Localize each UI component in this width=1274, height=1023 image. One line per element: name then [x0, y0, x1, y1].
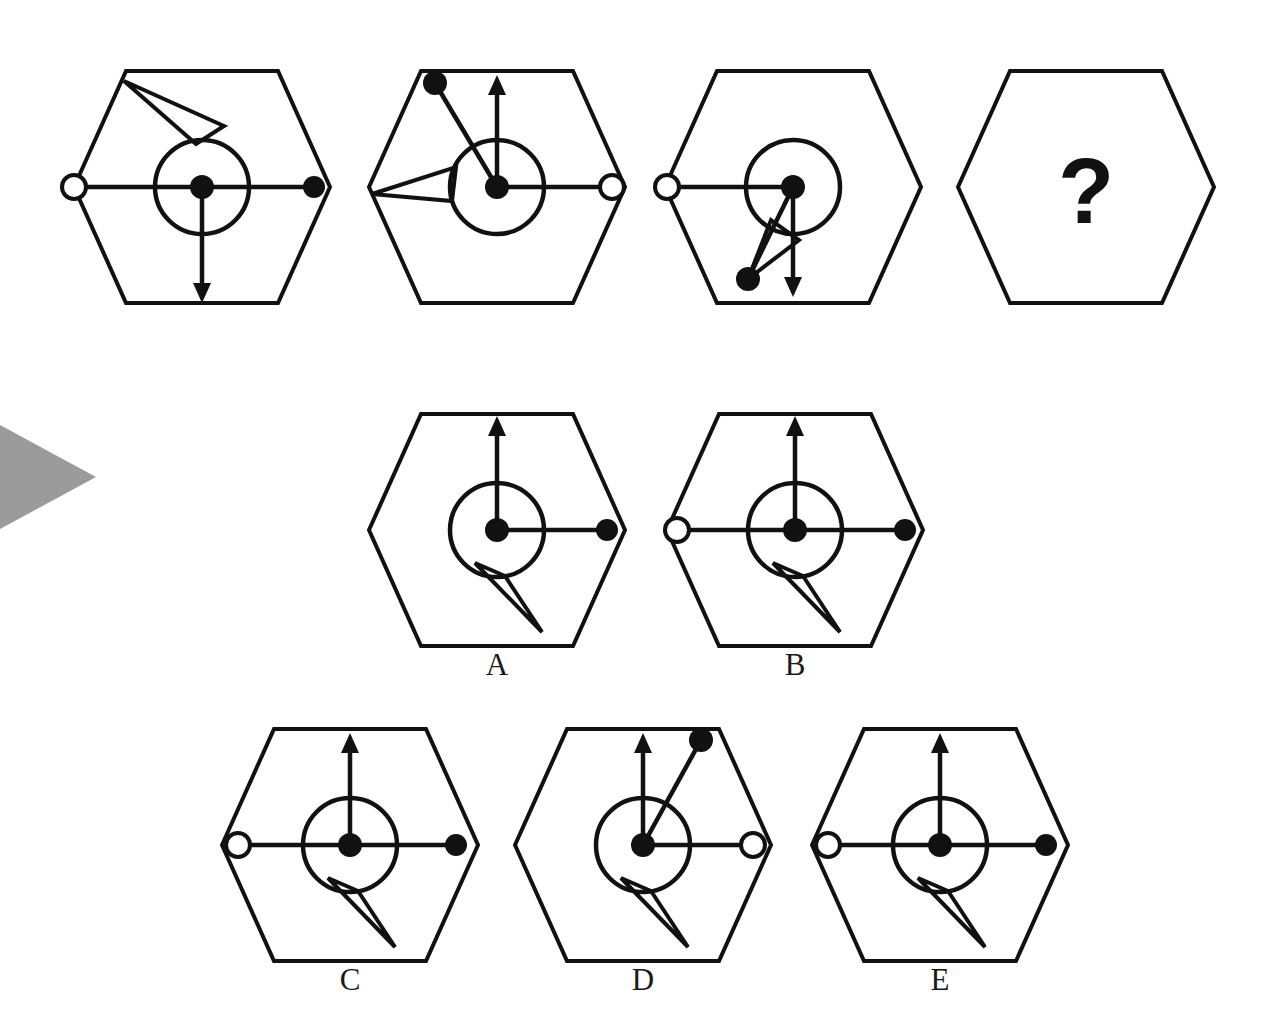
left-spoke-open-dot: [816, 833, 840, 857]
right-spoke-open-dot: [741, 833, 765, 857]
answer-hexagon-D[interactable]: [495, 709, 791, 981]
wedge-pointer: [124, 81, 224, 144]
center-dot: [781, 175, 805, 199]
puzzle-canvas: ? ABCDE: [0, 0, 1274, 1023]
question-mark-glyph: ?: [1058, 140, 1114, 242]
down-arrow-head: [784, 277, 802, 297]
right-spoke-filled-dot: [1035, 834, 1057, 856]
wedge-pointer: [372, 167, 456, 201]
center-dot: [783, 518, 807, 542]
up-arrow-head: [931, 733, 949, 753]
row-pointer-triangle-icon: [0, 425, 96, 529]
center-dot: [485, 175, 509, 199]
answer-hexagon-B[interactable]: [647, 394, 943, 666]
right-spoke-open-dot: [600, 175, 624, 199]
right-spoke-filled-dot: [894, 519, 916, 541]
center-dot: [928, 833, 952, 857]
up-arrow-head: [341, 733, 359, 753]
option-label-E: E: [910, 964, 970, 995]
left-spoke-open-dot: [62, 175, 86, 199]
answer-hexagon-E[interactable]: [792, 709, 1088, 981]
up-arrow-head: [786, 416, 804, 436]
up-arrow-head: [488, 416, 506, 436]
center-dot: [190, 175, 214, 199]
right-spoke-filled-dot: [596, 519, 618, 541]
left-spoke-open-dot: [226, 833, 250, 857]
option-label-B: B: [765, 649, 825, 680]
matrix-hexagon-q4: ?: [938, 51, 1234, 323]
left-spoke-open-dot: [665, 518, 689, 542]
diagonal-filled-dot: [689, 728, 713, 752]
up-arrow-head: [488, 75, 506, 95]
diagonal-dot-line: [643, 740, 701, 845]
matrix-hexagon-q3: [645, 51, 941, 323]
left-spoke-open-dot: [655, 175, 679, 199]
right-spoke-filled-dot: [445, 834, 467, 856]
center-dot: [631, 833, 655, 857]
option-label-D: D: [613, 964, 673, 995]
answer-hexagon-A[interactable]: [349, 394, 645, 666]
center-dot: [485, 518, 509, 542]
matrix-hexagon-q1: [54, 51, 350, 323]
matrix-hexagon-q2: [349, 51, 645, 323]
center-dot: [338, 833, 362, 857]
option-label-C: C: [320, 964, 380, 995]
down-arrow-head: [193, 283, 211, 303]
diagonal-filled-dot: [736, 267, 760, 291]
answer-hexagon-C[interactable]: [202, 709, 498, 981]
option-label-A: A: [467, 649, 527, 680]
diagonal-filled-dot: [423, 71, 447, 95]
right-spoke-filled-dot: [303, 176, 325, 198]
up-arrow-head: [634, 733, 652, 753]
